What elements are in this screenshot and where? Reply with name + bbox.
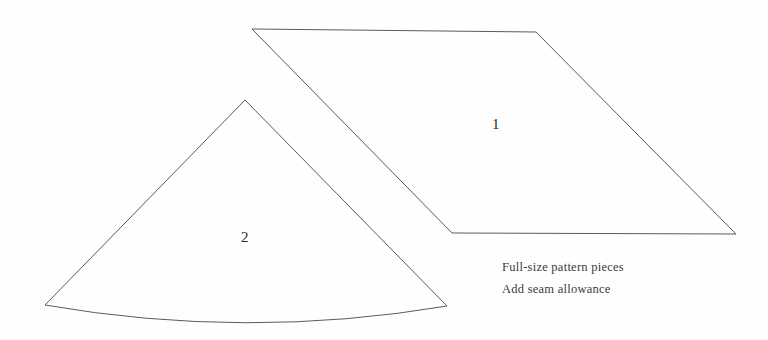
caption-add-seam-allowance: Add seam allowance	[502, 283, 611, 296]
pattern-sheet: 1 2 Full-size pattern pieces Add seam al…	[0, 0, 768, 340]
pattern-piece-2-label: 2	[241, 230, 249, 245]
caption-full-size-pattern-pieces: Full-size pattern pieces	[502, 261, 624, 274]
pattern-piece-1-label: 1	[492, 117, 500, 132]
pattern-piece-2-outline[interactable]	[45, 100, 447, 323]
pattern-drawing-canvas	[0, 0, 768, 340]
